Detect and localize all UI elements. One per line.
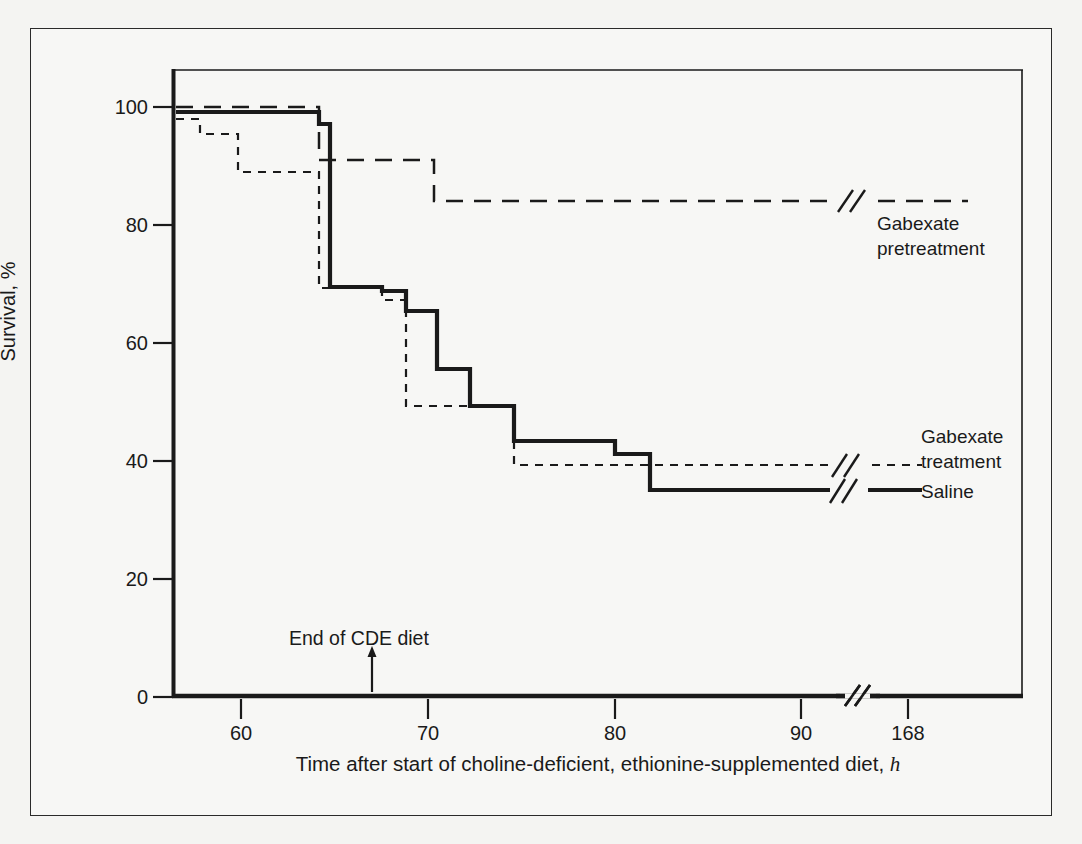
survival-chart — [0, 0, 1082, 844]
series-saline-curve — [176, 112, 830, 490]
figure-page: Survival, % Time after start of choline-… — [0, 0, 1082, 844]
x-axis-ticks — [241, 699, 908, 719]
series-gabexate-treatment-curve — [176, 119, 831, 465]
series-gabexate-treatment-break-icon — [832, 454, 859, 477]
y-axis-ticks — [153, 107, 173, 697]
annotation-arrow-cde — [368, 646, 377, 692]
series-saline-break-icon — [830, 479, 857, 503]
series-gabexate-pretreatment-break-icon — [838, 190, 865, 212]
series-gabexate-pretreatment-curve — [176, 107, 838, 201]
x-axis-break-icon — [836, 685, 880, 706]
axis-lines — [172, 69, 1023, 697]
